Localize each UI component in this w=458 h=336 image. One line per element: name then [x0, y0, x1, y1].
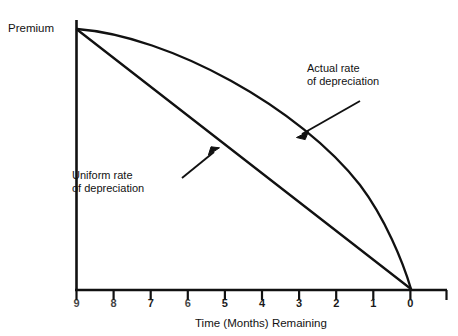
x-tick-label: 9 — [69, 297, 85, 309]
x-tick-label: 3 — [291, 297, 307, 309]
uniform-rate-arrow — [182, 147, 220, 178]
x-tick-label: 0 — [402, 297, 418, 309]
x-tick-label: 2 — [328, 297, 344, 309]
depreciation-chart-figure: Premium Actual rate of depreciation Unif… — [0, 0, 458, 336]
uniform-rate-annotation-label: Uniform rate of depreciation — [72, 169, 144, 195]
x-axis-title: Time (Months) Remaining — [195, 317, 327, 331]
actual-rate-annotation-label: Actual rate of depreciation — [307, 62, 379, 88]
x-tick-label: 8 — [106, 297, 122, 309]
chart-canvas — [0, 0, 458, 336]
x-tick-label: 6 — [180, 297, 196, 309]
x-tick-label: 1 — [365, 297, 381, 309]
x-tick-label: 5 — [217, 297, 233, 309]
axes — [75, 20, 447, 291]
actual-rate-arrow — [297, 101, 361, 140]
x-tick-label: 4 — [254, 297, 270, 309]
x-tick-label: 7 — [143, 297, 159, 309]
y-axis-label: Premium — [8, 22, 54, 36]
